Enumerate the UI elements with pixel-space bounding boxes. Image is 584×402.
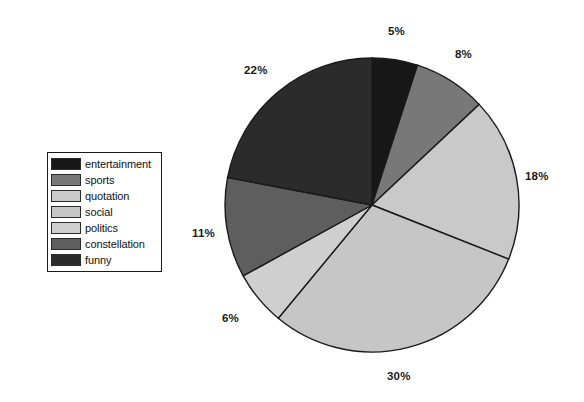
pie-data-label: 11% [192,227,215,239]
pie-graphic [0,0,584,402]
pie-chart-figure: entertainment sports quotation social po… [0,0,584,402]
pie-data-label: 6% [222,312,239,324]
pie-data-label: 30% [387,370,411,382]
pie-data-label: 18% [525,170,549,182]
pie-data-label: 22% [244,64,268,76]
pie-data-label: 8% [455,48,472,60]
pie-slice-group [225,58,519,352]
pie-data-label: 5% [388,25,405,37]
